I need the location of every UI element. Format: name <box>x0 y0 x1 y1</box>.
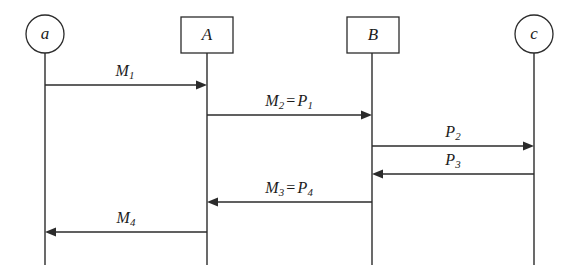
arrow-head-p2 <box>523 142 534 151</box>
message-label-m2-extra: P <box>297 92 307 109</box>
message-label-m3-equals: = <box>284 179 297 196</box>
sequence-diagram: a A B c <box>0 0 579 275</box>
participant-c-label: c <box>530 24 538 43</box>
message-label-m3-extra: P <box>297 179 307 196</box>
message-label-m2-sub: 2 <box>279 99 284 111</box>
message-label-m2: M2=P1 <box>265 93 313 109</box>
message-arrow-m4[interactable] <box>45 228 207 237</box>
message-label-m2-extra-sub: 1 <box>307 99 312 111</box>
arrow-head-m3 <box>207 198 218 207</box>
message-label-p2-main: P <box>445 123 455 140</box>
message-label-p3-sub: 3 <box>455 158 460 170</box>
message-label-m3-extra-sub: 4 <box>307 186 312 198</box>
message-label-m4-main: M <box>117 209 131 226</box>
message-arrow-p2[interactable] <box>372 142 534 151</box>
message-label-p3-main: P <box>445 151 455 168</box>
message-label-m2-equals: = <box>284 92 297 109</box>
message-arrow-p3[interactable] <box>372 170 534 179</box>
message-label-m1-sub: 1 <box>129 69 134 81</box>
message-label-m3-sub: 3 <box>279 186 284 198</box>
participant-A[interactable]: A <box>181 17 233 53</box>
message-label-m3: M3=P4 <box>265 180 313 196</box>
participant-A-label: A <box>201 25 213 44</box>
arrow-head-p3 <box>372 170 383 179</box>
message-label-p2: P2 <box>445 124 460 140</box>
message-label-m3-main: M <box>265 179 279 196</box>
participant-a[interactable]: a <box>26 15 64 53</box>
message-arrow-m2[interactable] <box>207 111 372 120</box>
participant-a-label: a <box>41 24 50 43</box>
message-arrow-m3[interactable] <box>207 198 372 207</box>
message-label-p3: P3 <box>445 152 460 168</box>
participant-c[interactable]: c <box>515 15 553 53</box>
message-label-m4: M4 <box>117 210 136 226</box>
message-label-m1-main: M <box>116 62 130 79</box>
participant-B[interactable]: B <box>347 17 399 53</box>
arrow-head-m1 <box>196 81 207 90</box>
arrow-head-m4 <box>45 228 56 237</box>
participant-B-label: B <box>368 25 379 44</box>
message-label-p2-sub: 2 <box>455 130 460 142</box>
message-label-m2-main: M <box>265 92 279 109</box>
message-arrow-m1[interactable] <box>45 81 207 90</box>
message-label-m4-sub: 4 <box>130 216 135 228</box>
message-label-m1: M1 <box>116 63 135 79</box>
diagram-canvas: a A B c <box>0 0 579 275</box>
arrow-head-m2 <box>361 111 372 120</box>
